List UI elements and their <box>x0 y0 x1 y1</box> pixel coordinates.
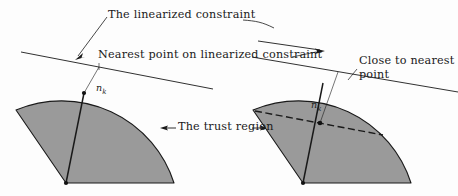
figure-canvas <box>0 0 458 196</box>
label-the-trust-region: The trust region <box>178 121 274 134</box>
label-nk-right: nk <box>311 99 321 113</box>
label-nk-left: nk <box>96 82 106 96</box>
right-trust-region-sector <box>253 101 411 183</box>
left-apex-point <box>64 181 68 185</box>
label-nk-left-subscript: k <box>102 88 106 96</box>
label-nearest-point-on-linearized-constraint: Nearest point on linearized constraint <box>98 49 322 62</box>
label-nk-right-subscript: k <box>317 105 321 113</box>
label-close-to-nearest-point: Close to nearest point <box>359 54 455 82</box>
left-trust-region-sector <box>16 101 174 183</box>
right-apex-point <box>301 181 305 185</box>
figure-root: The linearized constraint Nearest point … <box>0 0 458 196</box>
left-panel <box>16 17 325 185</box>
label-linearized-constraint: The linearized constraint <box>108 9 255 22</box>
